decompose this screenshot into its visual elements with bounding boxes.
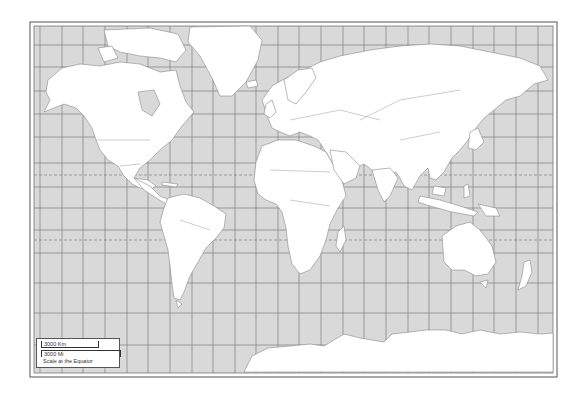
scale-legend: 3000 Km 3000 Mi Scale at the Equator bbox=[36, 338, 120, 368]
scale-mi-label: 3000 Mi bbox=[44, 351, 64, 357]
scale-caption: Scale at the Equator bbox=[43, 358, 93, 364]
scale-km-label: 3000 Km bbox=[44, 341, 66, 347]
scale-bar-mi: 3000 Mi bbox=[41, 350, 121, 357]
scale-bar-km: 3000 Km bbox=[41, 341, 99, 348]
